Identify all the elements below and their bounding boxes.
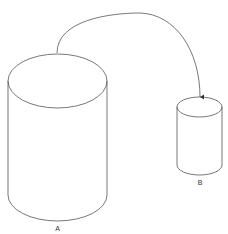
cylinder-a-bottom [8, 195, 107, 221]
cylinder-b-bottom [177, 165, 222, 175]
cylinder-b-top [177, 97, 222, 117]
cylinder-a-top [8, 54, 107, 108]
cylinder-b [177, 97, 222, 175]
label-b: B [198, 179, 203, 186]
diagram-canvas: A B [0, 0, 228, 234]
cylinder-a [8, 54, 107, 221]
connector-arrow [57, 13, 200, 97]
label-a: A [55, 225, 60, 232]
